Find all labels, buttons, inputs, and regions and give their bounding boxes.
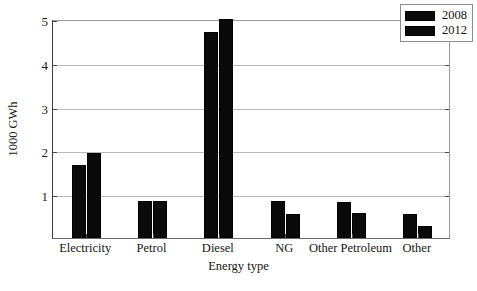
plot-area: 12345 [52,20,450,239]
y-tick-right-2 [445,152,449,153]
gridline-y-2 [53,152,449,153]
x-tick-label-petrol: Petrol [137,242,167,255]
y-tick-right-1 [445,196,449,197]
bar-2012-ng [286,214,300,238]
bar-2012-electricity [87,153,101,238]
bar-2008-ng [271,201,285,238]
x-tick-other [418,234,419,238]
y-tick-right-4 [445,65,449,66]
gridline-y-1 [53,196,449,197]
bar-2008-petrol [138,201,152,238]
x-tick-label-other-petroleum: Other Petroleum [309,242,392,255]
y-tick-2 [53,152,57,153]
legend-item-2008[interactable]: 2008 [405,8,467,23]
legend-label-2008: 2008 [442,9,467,22]
chart-legend: 2008 2012 [400,4,473,42]
y-tick-label-5: 5 [42,15,49,28]
x-tick-petrol [153,234,154,238]
x-tick-label-electricity: Electricity [59,242,111,255]
x-tick-ng [285,234,286,238]
y-tick-1 [53,196,57,197]
bar-2008-diesel [204,32,218,238]
legend-label-2012: 2012 [442,24,467,37]
y-tick-label-4: 4 [42,58,49,71]
x-tick-other-petroleum [352,234,353,238]
y-tick-label-2: 2 [42,146,49,159]
y-tick-5 [53,21,57,22]
gridline-y-4 [53,65,449,66]
bar-2012-other [418,226,432,238]
bar-2012-other-petroleum [352,213,366,238]
y-axis-label: 1000 GWh [6,101,21,156]
y-tick-4 [53,65,57,66]
y-tick-label-3: 3 [42,102,49,115]
legend-item-2012[interactable]: 2012 [405,23,467,38]
x-tick-diesel [219,234,220,238]
y-tick-label-1: 1 [42,190,49,203]
bar-2008-electricity [72,165,86,238]
bar-2012-petrol [153,201,167,238]
figure-canvas: 1000 GWh 12345 Energy type 2008 2012 Ele… [0,0,477,291]
legend-swatch-2012 [405,26,435,36]
bar-2008-other-petroleum [337,202,351,238]
x-axis-label: Energy type [0,259,477,274]
bar-2012-diesel [219,19,233,238]
y-tick-right-3 [445,109,449,110]
legend-swatch-2008 [405,11,435,21]
bar-2008-other [403,214,417,238]
x-tick-label-diesel: Diesel [202,242,234,255]
x-tick-label-ng: NG [275,242,293,255]
x-tick-label-other: Other [403,242,431,255]
gridline-y-3 [53,109,449,110]
x-tick-electricity [86,234,87,238]
y-tick-3 [53,109,57,110]
